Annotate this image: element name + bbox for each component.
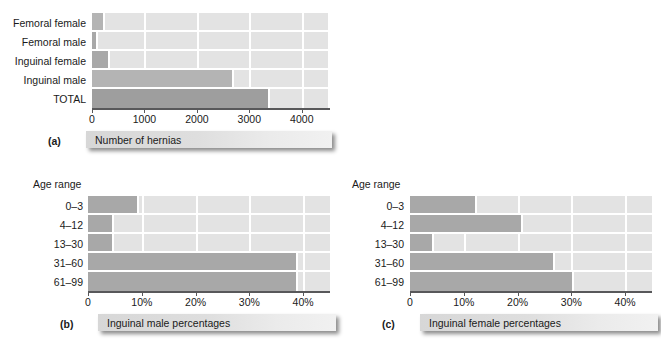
chart-c-category-labels: 0–3 4–12 13–30 31–60 61–99: [330, 196, 404, 291]
chart-c-category-label: 13–30: [375, 239, 404, 250]
chart-panel-c: Age range 0–3 4–12 13–30 31–60 61–99 0 1…: [330, 175, 661, 353]
chart-a-tick-label: 1000: [133, 113, 156, 125]
chart-c-bar: [410, 196, 477, 213]
chart-a-bar: [92, 32, 98, 49]
chart-b-tick-label: 10%: [131, 296, 152, 308]
chart-a-panel-letter: (a): [48, 135, 61, 147]
chart-a-caption-bar: Number of hernias: [86, 131, 332, 148]
chart-a-category-labels: Femoral female Femoral male Inguinal fem…: [0, 13, 86, 108]
chart-c-category-label: 0–3: [386, 201, 404, 212]
chart-a-bar: [92, 51, 110, 68]
chart-b-bar-separator: [88, 232, 330, 234]
chart-b-tick-label: 40%: [293, 296, 314, 308]
chart-a-tick-label: 3000: [238, 113, 261, 125]
chart-c-bar: [410, 215, 523, 232]
chart-a-category-label: Femoral male: [22, 37, 86, 48]
chart-c-caption: (c) Inguinal female percentages: [382, 314, 661, 334]
chart-b-panel-letter: (b): [60, 318, 73, 330]
chart-a-tick-label: 4000: [290, 113, 313, 125]
chart-b-caption-text: Inguinal male percentages: [107, 317, 230, 329]
chart-c-caption-text: Inguinal female percentages: [429, 317, 561, 329]
chart-a-category-label: TOTAL: [53, 94, 86, 105]
chart-a-category-label: Femoral female: [13, 18, 86, 29]
chart-b-category-label: 61–99: [54, 277, 83, 288]
chart-b-x-axis: [88, 291, 330, 293]
chart-b-bar: [88, 196, 139, 213]
chart-c-caption-bar: Inguinal female percentages: [420, 314, 658, 331]
chart-a-caption-text: Number of hernias: [95, 134, 181, 146]
chart-a-category-label: Inguinal male: [24, 75, 86, 86]
chart-c-axis-title: Age range: [352, 178, 400, 190]
chart-b-bar: [88, 272, 298, 291]
chart-c-category-label: 4–12: [381, 220, 404, 231]
chart-b-category-labels: 0–3 4–12 13–30 31–60 61–99: [0, 196, 83, 291]
chart-b-gridline-40: [303, 196, 305, 291]
chart-c-x-axis: [410, 291, 652, 293]
chart-b-caption-bar: Inguinal male percentages: [98, 314, 336, 331]
chart-c-tick-label: 10%: [453, 296, 474, 308]
chart-a-gridline-4000: [302, 13, 304, 108]
chart-c-bar-separator: [410, 232, 652, 234]
chart-b-bar: [88, 253, 298, 270]
chart-c-bar: [410, 253, 555, 270]
chart-b-category-label: 31–60: [54, 258, 83, 269]
chart-a-bar-separator: [92, 49, 328, 51]
chart-b-tick-label: 20%: [185, 296, 206, 308]
chart-c-tick-label: 40%: [615, 296, 636, 308]
chart-b-tick-label: 0: [85, 296, 91, 308]
chart-panel-a: Femoral female Femoral male Inguinal fem…: [0, 0, 340, 160]
chart-a-tick-label: 2000: [185, 113, 208, 125]
chart-c-tick-label: 0: [407, 296, 413, 308]
chart-b-plot-area: [88, 196, 330, 291]
chart-b-category-label: 4–12: [60, 220, 83, 231]
chart-c-category-label: 61–99: [375, 277, 404, 288]
chart-a-bar: [92, 89, 270, 108]
chart-c-bar: [410, 234, 434, 251]
chart-b-category-label: 0–3: [65, 201, 83, 212]
chart-b-caption: (b) Inguinal male percentages: [60, 314, 340, 334]
chart-a-tick-label: 0: [89, 113, 95, 125]
chart-c-bar: [410, 272, 574, 291]
chart-a-category-label: Inguinal female: [15, 56, 86, 67]
chart-a-plot-area: [92, 13, 328, 108]
chart-a-x-axis: [92, 108, 330, 110]
chart-b-bar: [88, 215, 114, 232]
chart-a-caption: (a) Number of hernias: [48, 131, 340, 151]
chart-c-tick-label: 20%: [507, 296, 528, 308]
chart-c-plot-area: [410, 196, 652, 291]
chart-c-category-label: 31–60: [375, 258, 404, 269]
chart-c-gridline-40: [625, 196, 627, 291]
chart-a-bar: [92, 13, 105, 30]
chart-panel-b: Age range 0–3 4–12 13–30 31–60 61–99 0 1…: [0, 175, 340, 353]
chart-c-panel-letter: (c): [382, 318, 395, 330]
chart-a-bar-separator: [92, 30, 328, 32]
chart-c-tick-label: 30%: [561, 296, 582, 308]
chart-b-bar: [88, 234, 114, 251]
chart-a-bar: [92, 70, 234, 87]
chart-b-tick-label: 30%: [239, 296, 260, 308]
chart-b-category-label: 13–30: [54, 239, 83, 250]
chart-b-bar-separator: [88, 213, 330, 215]
chart-b-axis-title: Age range: [33, 178, 81, 190]
